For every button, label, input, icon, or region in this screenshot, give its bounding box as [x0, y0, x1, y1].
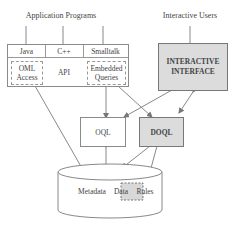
interactive-interface-box: INTERACTIVE INTERFACE — [158, 43, 228, 91]
api-label: API — [45, 68, 83, 77]
language-java: Java — [8, 47, 45, 56]
data-label: Data — [110, 187, 132, 196]
embedded-label: Embedded — [88, 64, 125, 73]
interface-label: INTERFACE — [159, 67, 227, 76]
interactive-users-label: Interactive Users — [150, 11, 230, 20]
interactive-label: INTERACTIVE — [159, 57, 227, 66]
application-programs-label: Application Programs — [6, 11, 116, 20]
metadata-label: Metadata — [72, 187, 112, 196]
oml-access-box: OML Access — [11, 61, 43, 85]
access-label: Access — [12, 73, 42, 82]
language-cpp: C++ — [45, 47, 83, 56]
embedded-queries-box: Embedded Queries — [87, 61, 126, 85]
oml-label: OML — [12, 64, 42, 73]
language-smalltalk: Smalltalk — [83, 47, 128, 56]
doql-box: DOQL — [139, 117, 184, 147]
rules-label: Rules — [133, 187, 157, 196]
oql-box: OQL — [80, 117, 126, 147]
doql-label: DOQL — [140, 128, 183, 137]
application-box: Java C++ Smalltalk OML Access API Embedd… — [7, 44, 129, 87]
queries-label: Queries — [88, 73, 125, 82]
oql-label: OQL — [81, 128, 125, 137]
